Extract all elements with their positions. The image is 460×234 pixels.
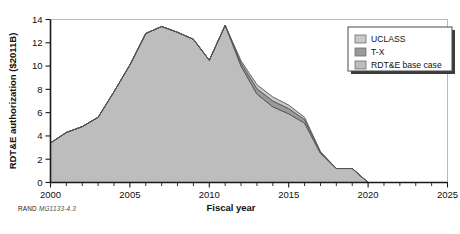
caption-id: MG1133-4.3 — [39, 205, 76, 212]
legend-label-rdt-e-base-case[interactable]: RDT&E base case — [371, 60, 442, 70]
caption-prefix: RAND — [18, 205, 37, 212]
x-tick-label: 2025 — [437, 189, 458, 200]
legend-swatch-t-x[interactable] — [355, 48, 366, 56]
rdte-authorization-area-chart: 02468101214200020052010201520202025 RDT&… — [0, 0, 460, 234]
chart-legend[interactable]: UCLASST-XRDT&E base case — [348, 27, 455, 74]
y-tick-label: 4 — [37, 130, 42, 141]
y-tick-label: 0 — [37, 177, 42, 188]
y-tick-label: 10 — [32, 60, 43, 71]
y-axis-title: RDT&E authorization ($2011B) — [7, 33, 18, 170]
legend-swatch-rdt-e-base-case[interactable] — [355, 61, 366, 69]
legend-label-uclass[interactable]: UCLASS — [371, 34, 406, 44]
y-tick-label: 8 — [37, 84, 42, 95]
x-axis-title: Fiscal year — [206, 202, 255, 213]
legend-label-t-x[interactable]: T-X — [371, 47, 385, 57]
y-tick-label: 14 — [32, 14, 43, 25]
x-tick-label: 2000 — [40, 189, 61, 200]
x-tick-label: 2015 — [278, 189, 299, 200]
y-tick-label: 2 — [37, 154, 42, 165]
legend-swatch-uclass[interactable] — [355, 35, 366, 43]
figure-caption: RAND MG1133-4.3 — [18, 205, 76, 212]
x-tick-label: 2010 — [199, 189, 220, 200]
figure-container: 02468101214200020052010201520202025 RDT&… — [0, 0, 460, 234]
y-tick-label: 6 — [37, 107, 42, 118]
y-tick-label: 12 — [32, 37, 43, 48]
x-tick-label: 2005 — [119, 189, 140, 200]
x-tick-label: 2020 — [358, 189, 379, 200]
